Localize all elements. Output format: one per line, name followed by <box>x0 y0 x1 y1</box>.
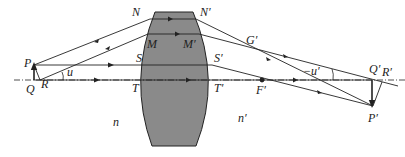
label-N: N <box>132 6 140 18</box>
label-M-prime: M′ <box>183 38 196 50</box>
focal-point <box>260 78 265 83</box>
label-S: S <box>136 52 142 64</box>
label-S-prime: S′ <box>214 52 223 64</box>
label-T: T <box>132 82 139 94</box>
label-Q: Q <box>26 83 35 95</box>
label-neg-u-prime: −u′ <box>303 65 320 77</box>
label-R: R <box>41 78 48 90</box>
label-G-prime: G′ <box>246 34 257 46</box>
label-M: M <box>147 38 157 50</box>
label-Q-prime: Q′ <box>369 63 380 75</box>
label-N-prime: N′ <box>200 6 211 18</box>
lens <box>141 12 209 146</box>
label-T-prime: T′ <box>214 82 223 94</box>
label-u: u <box>67 66 73 78</box>
label-n-prime: n′ <box>238 112 247 124</box>
label-R-prime: R′ <box>382 66 392 78</box>
thick-lens-diagram: N N′ M M′ S S′ T T′ P Q R u G′ F′ −u′ Q′… <box>0 0 405 157</box>
label-F-prime: F′ <box>256 84 266 96</box>
label-P: P <box>24 57 31 69</box>
diagram-canvas <box>0 0 405 157</box>
label-n: n <box>113 116 119 128</box>
label-P-prime: P′ <box>368 112 378 124</box>
